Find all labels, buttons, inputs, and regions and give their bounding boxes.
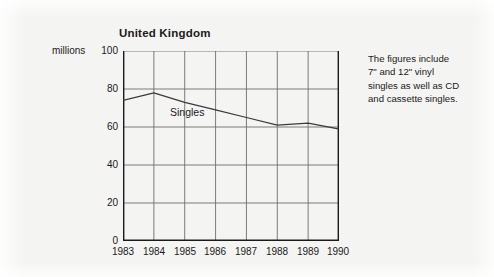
series-line-singles — [123, 93, 338, 129]
line-chart-svg — [123, 51, 339, 241]
figure-note-line-2: 7" and 12" vinyl — [368, 65, 484, 78]
figure-note: The figures include 7" and 12" vinyl sin… — [368, 52, 484, 106]
figure-note-line-4: and cassette singles. — [368, 92, 484, 105]
y-tick-80: 80 — [92, 84, 118, 94]
horizontal-gridlines — [123, 51, 339, 203]
plot-area — [123, 51, 339, 241]
figure-note-line-1: The figures include — [368, 52, 484, 65]
figure-note-line-3: singles as well as CD — [368, 79, 484, 92]
axis-lines — [123, 51, 339, 241]
x-tick-1990: 1990 — [318, 247, 358, 257]
y-tick-40: 40 — [92, 160, 118, 170]
vertical-gridlines — [154, 51, 308, 241]
y-axis-unit-label: millions — [52, 45, 85, 56]
y-tick-20: 20 — [92, 198, 118, 208]
page-title: United Kingdom — [119, 27, 211, 39]
chart-figure: United Kingdom millions — [0, 0, 494, 277]
y-tick-100: 100 — [92, 46, 118, 56]
series-label-singles: Singles — [170, 106, 204, 118]
y-tick-60: 60 — [92, 122, 118, 132]
y-tick-0: 0 — [92, 236, 118, 246]
